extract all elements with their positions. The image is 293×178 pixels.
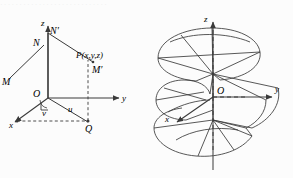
generator-l2 — [164, 88, 206, 100]
point-m-prime-label: M′ — [91, 64, 103, 75]
dot-p — [92, 61, 95, 64]
generator-b1 — [154, 120, 213, 128]
y-axis-label: y — [121, 93, 126, 103]
inner-arc-mid-right — [246, 100, 266, 128]
generator-u3 — [213, 52, 260, 74]
x-axis-label: x — [164, 114, 169, 124]
x-axis-label: x — [8, 120, 13, 130]
helix-rim-bottom — [154, 128, 252, 156]
z-axis-label: z — [40, 18, 45, 28]
helicoid-figure: z y x O — [146, 0, 293, 178]
generator-b2 — [198, 120, 213, 156]
point-m-label: M — [1, 76, 11, 87]
generator-u4 — [181, 35, 213, 74]
generator-join-2 — [196, 74, 213, 81]
coordinate-frame-figure: z y x O P(x,y,z) N N′ M M′ Q u v — [0, 0, 146, 178]
point-n-label: N — [32, 37, 41, 48]
inner-arc-lower-left — [168, 100, 210, 112]
generator-l1 — [156, 92, 204, 100]
helix-rim-upper-back — [158, 28, 260, 58]
coordinate-frame-svg: z y x O P(x,y,z) N N′ M M′ Q u v — [0, 0, 146, 178]
helix-rim-lower-left-top — [156, 80, 210, 100]
origin-label: O — [217, 85, 224, 96]
figure-page: ···························· — [0, 0, 293, 178]
dot-x-base — [16, 120, 19, 123]
x-axis-line — [177, 97, 213, 122]
point-q-label: Q — [85, 123, 93, 134]
point-p-label: P(x,y,z) — [75, 50, 103, 60]
sheet-edge-upper — [158, 52, 260, 58]
generator-l3 — [186, 110, 213, 120]
segment-m-n — [10, 45, 44, 78]
helix-rim-upper-left — [158, 58, 196, 81]
helix-rim-upper-right — [220, 52, 260, 80]
helix-rim-mid-right — [252, 88, 279, 128]
angle-v-label: v — [42, 108, 46, 118]
angle-u-label: u — [68, 104, 73, 114]
origin-label: O — [33, 88, 40, 99]
helicoid-svg: z y x O — [146, 0, 293, 178]
z-axis-label: z — [203, 14, 208, 24]
point-n-prime-label: N′ — [49, 25, 60, 36]
y-axis-label: y — [274, 84, 279, 94]
